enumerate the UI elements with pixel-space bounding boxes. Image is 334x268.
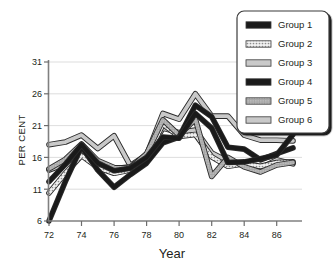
y-tick-label: 16: [32, 153, 42, 163]
legend-swatch: [246, 60, 271, 66]
legend-swatch: [246, 98, 271, 104]
y-tick-label: 31: [32, 57, 42, 67]
legend-swatch: [246, 79, 271, 85]
chart-canvas: 61116212631 7274767880828486 Year PER CE…: [0, 0, 334, 268]
x-tick-label: 74: [76, 230, 86, 240]
legend-label: Group 2: [278, 38, 312, 49]
legend-swatch: [246, 117, 271, 123]
legend-label: Group 1: [278, 19, 312, 30]
legend-swatch: [246, 22, 271, 28]
legend-label: Group 4: [278, 76, 312, 87]
y-axis-title: PER CENT: [16, 114, 27, 165]
y-tick-label: 11: [33, 185, 42, 195]
legend-label: Group 5: [278, 95, 312, 106]
y-tick-label: 6: [37, 216, 42, 226]
line-chart: 61116212631 7274767880828486 Year PER CE…: [0, 0, 334, 268]
x-tick-label: 82: [207, 230, 217, 240]
legend-label: Group 6: [278, 114, 312, 125]
x-tick-label: 84: [239, 230, 249, 240]
y-tick-label: 21: [32, 121, 42, 131]
x-tick-label: 72: [44, 230, 54, 240]
x-tick-label: 78: [142, 230, 152, 240]
y-tick-label: 26: [32, 89, 42, 99]
x-tick-label: 80: [174, 230, 184, 240]
x-tick-label: 76: [109, 230, 119, 240]
legend-label: Group 3: [278, 57, 312, 68]
x-axis-ticks: 7274767880828486: [44, 221, 282, 240]
x-tick-label: 86: [272, 230, 282, 240]
x-axis-title: Year: [159, 246, 186, 261]
legend-swatch: [246, 41, 271, 47]
legend[interactable]: Group 1Group 2Group 3Group 4Group 5Group…: [237, 11, 329, 133]
y-axis-ticks: 61116212631: [32, 57, 49, 226]
